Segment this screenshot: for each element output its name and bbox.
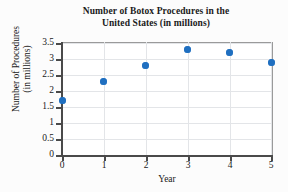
data-point[interactable] [59,97,66,104]
chart-title-line-1: Number of Botox Procedures in the [36,6,276,18]
y-axis-title: Number of Procedures (in millions) [11,9,33,129]
chart-title-line-2: United States (in millions) [36,18,276,30]
y-axis-tick [56,107,62,109]
gridline-vertical [104,42,105,155]
scatter-chart-figure: Number of Botox Procedures in the United… [0,0,288,192]
y-axis-tick [56,123,62,125]
x-axis-line [61,155,273,157]
gridline-horizontal [62,123,272,124]
gridline-horizontal [62,91,272,92]
y-axis-title-line-2: (in millions) [22,9,33,129]
data-point[interactable] [226,49,233,56]
gridline-horizontal [62,107,272,108]
data-point[interactable] [142,62,149,69]
x-axis-title: Year [62,174,272,184]
gridline-horizontal [62,43,272,44]
data-point[interactable] [184,46,191,53]
gridline-horizontal [62,59,272,60]
gridline-horizontal [62,75,272,76]
x-tick-label: 1 [94,160,114,170]
gridline-vertical [146,42,147,155]
x-tick-label: 0 [52,160,72,170]
gridline-vertical [230,42,231,155]
x-tick-label: 4 [220,160,240,170]
data-point[interactable] [268,59,275,66]
x-tick-label: 2 [136,160,156,170]
y-tick-label: 0.5 [14,133,54,143]
y-axis-tick [56,139,62,141]
y-axis-tick [56,59,62,61]
y-axis-tick [56,75,62,77]
y-axis-tick [56,91,62,93]
x-tick-label: 5 [261,160,281,170]
chart-title: Number of Botox Procedures in the United… [36,6,276,29]
y-axis-tick [56,43,62,45]
y-tick-label: 0 [14,149,54,159]
gridline-vertical [188,42,189,155]
gridline-horizontal [62,139,272,140]
y-axis-title-line-1: Number of Procedures [11,26,21,112]
x-tick-label: 3 [178,160,198,170]
